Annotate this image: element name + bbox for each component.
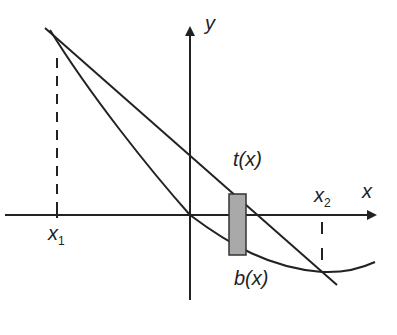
y-axis-label: y xyxy=(203,12,216,34)
x1-label: x1 xyxy=(47,222,65,248)
bottom-curve-b xyxy=(50,30,375,272)
bottom-curve-label: b(x) xyxy=(234,267,268,289)
top-curve-label: t(x) xyxy=(233,148,262,170)
x2-label: x2 xyxy=(313,184,331,210)
representative-strip xyxy=(229,194,246,255)
area-diagram: y x t(x) b(x) x1 x2 xyxy=(0,0,397,335)
x-axis-label: x xyxy=(361,180,373,202)
